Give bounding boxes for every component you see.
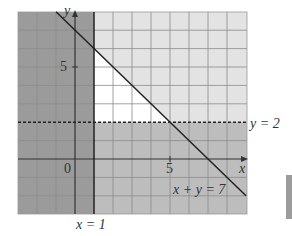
label-y-equals-2: y = 2	[250, 117, 280, 131]
tick-label-x5: 5	[166, 162, 173, 176]
label-x-equals-1: x = 1	[76, 218, 106, 232]
x-axis-label: x	[239, 162, 245, 176]
inequality-graph	[0, 0, 292, 236]
side-bar-marker	[286, 175, 292, 219]
y-axis-label: y	[64, 4, 70, 18]
origin-label: 0	[64, 162, 71, 176]
label-x-plus-y-equals-7: x + y = 7	[173, 183, 225, 197]
tick-label-y5: 5	[60, 60, 67, 74]
